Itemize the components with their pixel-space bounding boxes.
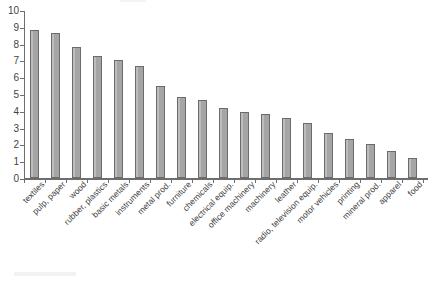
y-axis-tick-label: 8: [13, 40, 19, 50]
bar: [135, 66, 144, 178]
bar: [51, 33, 60, 178]
y-axis-tick-label: 6: [13, 73, 19, 83]
y-axis-tick-label: 4: [13, 107, 19, 117]
bar: [240, 112, 249, 178]
x-axis-labels: textilespulp, paperwoodrubber, plasticsb…: [24, 180, 439, 280]
y-axis-tick: [20, 45, 24, 46]
y-axis-tick-label: 1: [13, 157, 19, 167]
y-axis-line: [24, 11, 25, 179]
bar: [219, 108, 228, 178]
bar: [282, 118, 291, 178]
y-axis-tick-label: 9: [13, 23, 19, 33]
bar: [408, 158, 417, 178]
bar: [261, 114, 270, 178]
bar: [345, 139, 354, 178]
x-axis-tick-label: food: [406, 180, 424, 198]
y-axis-tick: [20, 145, 24, 146]
bar: [114, 60, 123, 178]
y-axis-tick-label: 0: [13, 174, 19, 184]
y-axis-tick: [20, 61, 24, 62]
bar: [177, 97, 186, 178]
bar: [198, 100, 207, 178]
bar: [93, 56, 102, 178]
bar: [156, 86, 165, 178]
y-axis-tick-label: 10: [8, 6, 19, 16]
bar: [303, 123, 312, 178]
bar: [324, 133, 333, 178]
y-axis-tick: [20, 112, 24, 113]
y-axis-tick-label: 5: [13, 90, 19, 100]
bar: [30, 30, 39, 178]
bar-chart: 012345678910 textilespulp, paperwoodrubb…: [0, 0, 439, 283]
y-axis-tick: [20, 11, 24, 12]
bar: [387, 151, 396, 178]
y-axis-tick: [20, 95, 24, 96]
y-axis-tick: [20, 28, 24, 29]
y-axis-tick: [20, 78, 24, 79]
y-axis-tick: [20, 129, 24, 130]
cropped-title-remnant: [120, 0, 146, 2]
bar: [366, 144, 375, 178]
y-axis-tick-label: 2: [13, 140, 19, 150]
plot-area: 012345678910: [24, 11, 428, 179]
y-axis-tick-label: 7: [13, 56, 19, 66]
bar: [72, 47, 81, 178]
y-axis-tick: [20, 162, 24, 163]
y-axis-tick-label: 3: [13, 124, 19, 134]
